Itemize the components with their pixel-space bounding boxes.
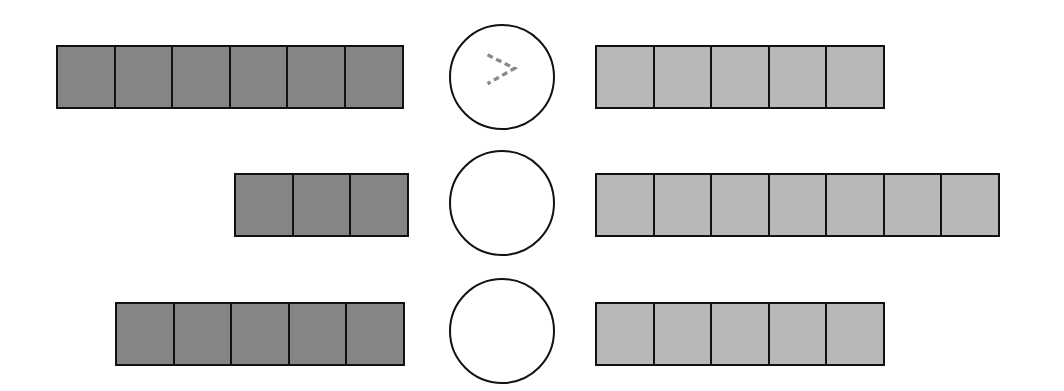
row-1-right-blocks: [595, 45, 885, 109]
left-block: [349, 173, 409, 237]
left-block: [344, 45, 404, 109]
right-block: [653, 173, 713, 237]
row-3-left-blocks: [115, 302, 405, 366]
greater-than-icon: [451, 26, 553, 128]
row-1-left-blocks: [56, 45, 404, 109]
left-block: [171, 45, 231, 109]
row-2-left-blocks: [234, 173, 409, 237]
row-2-right-blocks: [595, 173, 1000, 237]
right-block: [595, 173, 655, 237]
right-block: [825, 173, 885, 237]
row-3-comparison-circle[interactable]: [449, 278, 555, 384]
left-block: [288, 302, 348, 366]
right-block: [595, 45, 655, 109]
left-block: [229, 45, 289, 109]
right-block: [653, 45, 713, 109]
right-block: [710, 173, 770, 237]
right-block: [768, 173, 828, 237]
right-block: [825, 45, 885, 109]
left-block: [173, 302, 233, 366]
right-block: [825, 302, 885, 366]
right-block: [768, 302, 828, 366]
left-block: [115, 302, 175, 366]
left-block: [234, 173, 294, 237]
row-3-right-blocks: [595, 302, 885, 366]
left-block: [345, 302, 405, 366]
right-block: [710, 45, 770, 109]
left-block: [230, 302, 290, 366]
left-block: [114, 45, 174, 109]
right-block: [710, 302, 770, 366]
row-2-comparison-circle[interactable]: [449, 150, 555, 256]
right-block: [768, 45, 828, 109]
right-block: [653, 302, 713, 366]
right-block: [595, 302, 655, 366]
left-block: [292, 173, 352, 237]
left-block: [56, 45, 116, 109]
right-block: [940, 173, 1000, 237]
left-block: [286, 45, 346, 109]
row-1-comparison-circle[interactable]: [449, 24, 555, 130]
right-block: [883, 173, 943, 237]
